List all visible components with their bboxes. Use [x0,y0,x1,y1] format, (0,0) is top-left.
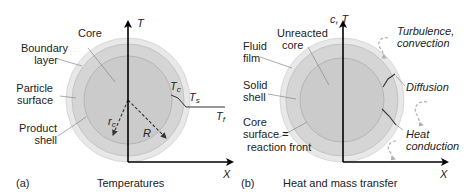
temp-surface-sub: s [196,96,200,105]
label-turbulence-1: Turbulence, [397,25,454,37]
label-core-surface-1: Core [243,116,267,128]
label-temp-surface: Ts [189,91,200,105]
label-boundary-layer-1: Boundary [21,42,69,54]
unreacted-core-circle [300,58,384,142]
axis-y-label-b: c, T [330,13,350,25]
panel-tag-a: (a) [16,177,29,189]
label-temp-fluid: Tf [216,110,226,124]
caption-a: Temperatures [97,177,165,189]
label-unreacted-core-1: Unreacted [277,27,328,39]
label-solid-shell-2: shell [243,91,266,103]
label-turbulence-2: convection [397,37,450,49]
axis-x-label-a: X [222,168,231,180]
panel-b: c, T X Unreacted core Fluid film Solid s… [241,13,459,189]
caption-b: Heat and mass transfer [283,177,398,189]
label-product-shell-2: shell [34,134,57,146]
label-core-surface-3: reaction front [247,141,311,153]
label-diffusion: Diffusion [406,81,449,93]
axis-x-label-b: X [439,168,448,180]
label-heat-2: conduction [406,140,459,152]
label-product-shell-1: Product [19,122,57,134]
label-solid-shell-1: Solid [243,79,267,91]
label-particle-surface-1: Particle [16,82,53,94]
label-boundary-layer-2: layer [34,54,58,66]
diagram: T X Core Boundary layer Particle surface… [0,0,474,196]
label-core-surface-2: surface = [243,128,289,140]
swirl-arrow-middle [415,102,427,125]
temp-core-sub: c [177,85,181,94]
label-heat-1: Heat [406,128,430,140]
label-fluid-film-2: film [243,52,260,64]
label-unreacted-core-2: core [282,39,303,51]
swirl-arrow-bottom [388,141,396,159]
label-particle-surface-2: surface [17,94,53,106]
label-fluid-film-1: Fluid [243,40,267,52]
panel-a: T X Core Boundary layer Particle surface… [16,17,232,189]
temp-fluid-sub: f [223,115,226,124]
panel-tag-b: (b) [241,177,254,189]
leader-fluid-film [260,57,292,68]
label-radius-particle: R [143,127,151,139]
label-core: Core [78,27,102,39]
axis-y-label-a: T [137,17,145,29]
radius-core-sub: c [112,120,116,129]
